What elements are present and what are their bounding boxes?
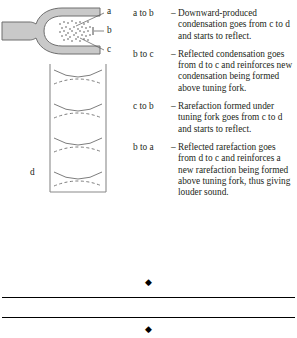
tuning-fork-figure: a b c <box>0 0 130 62</box>
explanation-item: b to c – Reflected condensation goes fro… <box>133 49 295 94</box>
horizontal-rule-upper <box>2 297 295 298</box>
explanation-item: a to b – Downward-produced condensation … <box>133 8 295 42</box>
explanation-dash: – <box>171 142 178 153</box>
stipple-field <box>59 20 91 42</box>
explanation-text: Rarefaction formed under tuning fork goe… <box>178 101 295 135</box>
tube-label-d: d <box>30 167 35 177</box>
fork-label-a: a <box>107 6 111 16</box>
explanation-text: Reflected rarefaction goes from d to c a… <box>178 142 295 198</box>
explanation-list: a to b – Downward-produced condensation … <box>133 8 295 205</box>
diamond-ornament-top: ◆ <box>0 278 297 287</box>
tuning-fork-body <box>2 8 100 54</box>
horizontal-rule-lower <box>2 317 295 318</box>
explanation-item: c to b – Rarefaction formed under tuning… <box>133 101 295 135</box>
resonance-tube-figure: d <box>28 62 128 202</box>
tube-wave-pairs <box>54 70 102 186</box>
fork-label-c: c <box>107 44 111 54</box>
diamond-ornament-bottom: ◆ <box>0 325 297 334</box>
explanation-key: b to a <box>133 142 171 153</box>
explanation-dash: – <box>171 49 178 60</box>
explanation-item: b to a – Reflected rarefaction goes from… <box>133 142 295 198</box>
tube-walls <box>50 64 106 192</box>
explanation-dash: – <box>171 101 178 112</box>
explanation-text: Downward-produced condensation goes from… <box>178 8 295 42</box>
explanation-key: b to c <box>133 49 171 60</box>
explanation-key: a to b <box>133 8 171 19</box>
explanation-key: c to b <box>133 101 171 112</box>
explanation-dash: – <box>171 8 178 19</box>
explanation-text: Reflected condensation goes from d to c … <box>178 49 295 94</box>
fork-label-b: b <box>107 25 112 35</box>
